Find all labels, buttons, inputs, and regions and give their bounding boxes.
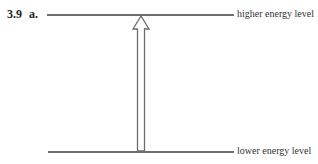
up-arrow-icon <box>0 0 318 164</box>
